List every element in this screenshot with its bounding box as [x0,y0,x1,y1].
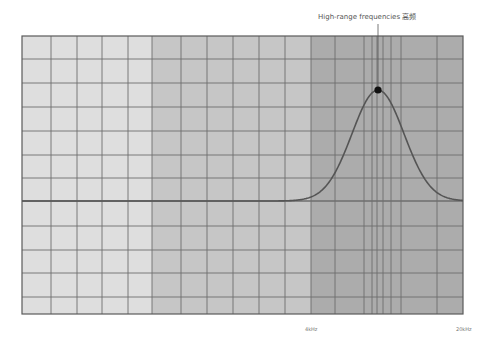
frequency-zones [22,36,463,314]
frequency-response-chart [0,0,485,339]
mid-range-zone [152,36,311,314]
peak-marker [374,86,381,93]
annotation-label: High-range frequencies 高频 [318,11,416,21]
low-range-zone [22,36,152,314]
x-tick-20khz: 20kHz [456,326,472,332]
x-tick-4khz: 4kHz [305,326,317,332]
